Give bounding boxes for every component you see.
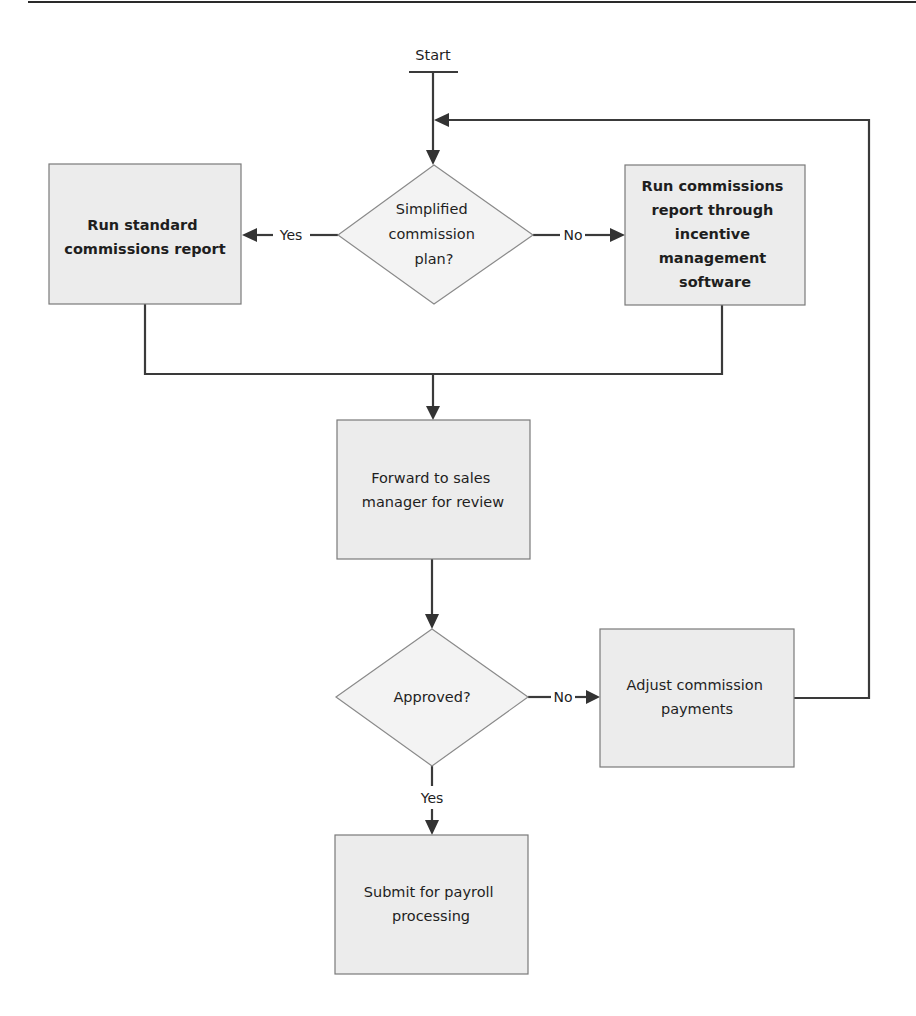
- process-adjust-payments: Adjust commission payments: [600, 629, 794, 767]
- start-label: Start: [415, 47, 451, 63]
- arrowhead-down: [426, 406, 440, 420]
- process-forward-review: Forward to sales manager for review: [337, 420, 530, 559]
- arrowhead-right: [586, 690, 600, 704]
- edge-label-no: No: [553, 689, 572, 705]
- node-text: Approved?: [393, 689, 470, 705]
- arrowhead-down: [425, 820, 439, 835]
- process-standard-report: Run standard commissions report: [49, 164, 241, 304]
- arrowhead-down: [426, 150, 440, 165]
- arrowhead-right: [610, 228, 625, 242]
- edge-label-yes: Yes: [420, 790, 444, 806]
- edge-label-yes: Yes: [279, 227, 303, 243]
- decision-approved: Approved?: [336, 629, 528, 766]
- process-incentive-report: Run commissions report through incentive…: [625, 165, 805, 305]
- process-submit-payroll: Submit for payroll processing: [335, 835, 528, 974]
- decision-simplified-plan: Simplified commission plan?: [338, 165, 533, 304]
- arrowhead-left: [242, 228, 257, 242]
- flowchart: Start Yes No No Yes: [0, 0, 916, 1016]
- edge-label-no: No: [563, 227, 582, 243]
- edge-merge: [145, 304, 722, 374]
- arrowhead-left: [434, 113, 449, 127]
- arrowhead-down: [425, 614, 439, 629]
